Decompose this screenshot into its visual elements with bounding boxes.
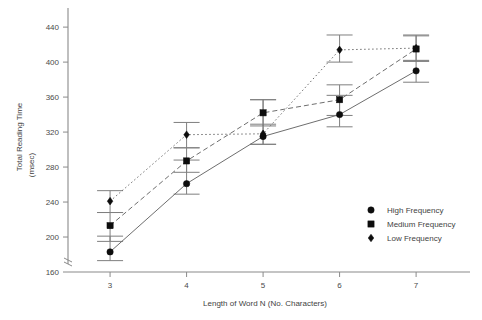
data-point-high-frequency-4	[183, 180, 189, 186]
y-tick-label: 240	[46, 198, 60, 207]
legend-marker-circle	[368, 207, 374, 213]
x-tick-label: 4	[184, 281, 189, 290]
legend-label-diamond: Low Frequency	[387, 234, 442, 243]
data-point-high-frequency-6	[336, 111, 342, 117]
x-tick-label: 5	[261, 281, 266, 290]
x-tick-label: 6	[337, 281, 342, 290]
x-axis-title: Length of Word N (No. Characters)	[203, 299, 327, 308]
y-tick-label: 160	[46, 268, 60, 277]
data-point-medium-frequency-6	[336, 97, 342, 103]
data-point-medium-frequency-4	[183, 158, 189, 164]
y-tick-label: 200	[46, 233, 60, 242]
legend-marker-square	[368, 221, 374, 227]
data-point-high-frequency-7	[413, 68, 419, 74]
data-point-high-frequency-3	[107, 249, 113, 255]
y-tick-label: 440	[46, 23, 60, 32]
y-tick-label: 280	[46, 163, 60, 172]
legend-label-square: Medium Frequency	[387, 220, 455, 229]
chart-figure: 16020024028032036040044034567Length of W…	[0, 0, 482, 320]
y-tick-label: 360	[46, 93, 60, 102]
x-tick-label: 3	[108, 281, 113, 290]
legend-label-circle: High Frequency	[387, 206, 443, 215]
y-tick-label: 320	[46, 128, 60, 137]
reading-time-line-chart: 16020024028032036040044034567Length of W…	[0, 0, 482, 320]
data-point-low-frequency-3	[107, 197, 113, 205]
data-point-medium-frequency-3	[107, 223, 113, 229]
y-tick-label: 400	[46, 58, 60, 67]
data-point-medium-frequency-5	[260, 110, 266, 116]
data-point-low-frequency-4	[184, 131, 190, 139]
y-axis-unit: (msec)	[27, 152, 36, 177]
legend-marker-diamond	[368, 234, 374, 242]
x-tick-label: 7	[414, 281, 419, 290]
y-axis-title: Total Reading Time	[15, 102, 24, 171]
